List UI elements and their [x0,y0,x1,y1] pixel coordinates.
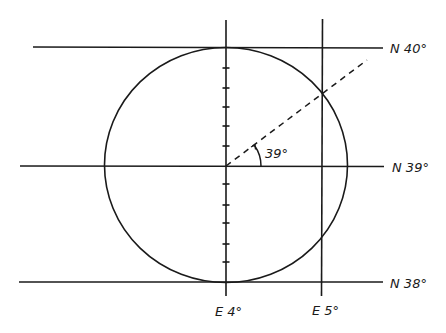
label-n40: N 40° [390,41,427,56]
angle-arrowhead [251,145,256,150]
label-e4: E 4° [215,304,242,319]
geometry-diagram: 39° N 40° N 39° N 38° E 4° E 5° [0,0,446,333]
latitude-line-n39 [20,166,384,167]
label-n38: N 38° [390,276,427,291]
label-e5: E 5° [312,303,339,318]
longitude-line-e5 [322,19,323,296]
angle-label: 39° [265,146,288,161]
latitude-line-n40 [33,47,383,48]
label-n39: N 39° [392,160,429,175]
